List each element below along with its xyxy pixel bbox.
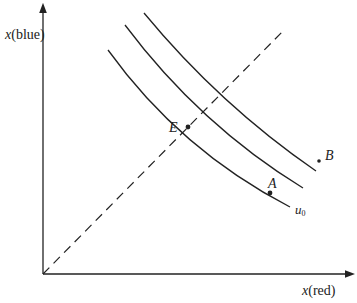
- point-A-label: A: [267, 176, 277, 191]
- x-axis-label: x(red): [301, 283, 336, 299]
- indifference-curve-diagram: x(blue) x(red) E A B u0: [0, 0, 357, 303]
- point-E-label: E: [168, 120, 178, 135]
- point-E: [186, 125, 191, 130]
- dashed-45-degree-line: [43, 30, 284, 274]
- curve-u0-label: u0: [295, 202, 306, 218]
- point-B-label: B: [325, 148, 334, 163]
- indifference-curve-outer: [144, 13, 316, 171]
- point-B: [317, 159, 321, 163]
- point-A: [268, 191, 273, 196]
- y-axis-label: x(blue): [4, 27, 45, 43]
